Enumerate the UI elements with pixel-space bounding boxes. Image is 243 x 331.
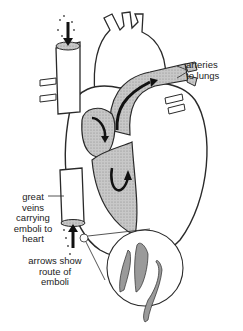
emboli-dots-top xyxy=(57,15,75,37)
right-atrium xyxy=(82,108,115,157)
heart-emboli-diagram: arteries to lungs great veins carrying e… xyxy=(0,0,243,331)
superior-vena-cava xyxy=(56,42,80,114)
veins-leader-line xyxy=(48,194,64,198)
label-great-veins: great veins carrying emboli to heart xyxy=(4,192,62,245)
label-arteries-to-lungs: arteries to lungs xyxy=(186,60,219,81)
emboli-dots-bottom xyxy=(63,229,71,255)
arteries-bracket xyxy=(175,60,189,82)
label-arrows-route: arrows show route of emboli xyxy=(22,256,88,288)
